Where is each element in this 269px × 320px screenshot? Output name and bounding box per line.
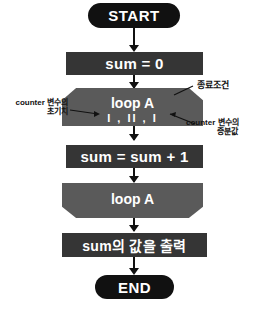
node-init-sum[interactable]: sum = 0 — [66, 52, 203, 75]
arrowhead-init-to-loopstart — [129, 82, 139, 89]
node-accumulate-label: sum = sum + 1 — [80, 148, 188, 165]
node-output-label: sum의 값을 출력 — [82, 235, 187, 255]
annotation-termination: 종료조건 — [197, 80, 267, 90]
arrowhead-start-to-init — [129, 45, 139, 52]
annotation-init-value-line2: 초기치 — [2, 108, 68, 117]
arrowhead-loopend-to-output — [129, 225, 139, 232]
node-init-sum-label: sum = 0 — [105, 55, 163, 72]
flowchart-canvas: START sum = 0 loop A I , II , I counter … — [0, 0, 269, 320]
annotation-increment-line2: 증분값 — [186, 128, 268, 137]
node-loop-start[interactable]: loop A I , II , I — [62, 88, 203, 126]
node-start[interactable]: START — [88, 3, 180, 28]
arrowhead-loopstart-to-accumulate — [129, 134, 139, 141]
node-loop-start-params: I , II , I — [62, 112, 203, 124]
annotation-increment: counter 변수의 증분값 — [186, 119, 268, 137]
node-loop-end[interactable]: loop A — [62, 183, 203, 218]
annotation-termination-line1: 종료조건 — [197, 80, 267, 90]
arrowhead-output-to-end — [129, 268, 139, 275]
node-loop-end-label: loop A — [62, 191, 203, 207]
annotation-init-value: counter 변수의 초기치 — [2, 99, 68, 117]
node-start-label: START — [108, 7, 159, 24]
node-loop-start-label: loop A — [62, 95, 203, 111]
node-end-label: END — [118, 279, 151, 296]
node-end[interactable]: END — [95, 275, 174, 299]
node-accumulate[interactable]: sum = sum + 1 — [66, 145, 203, 168]
arrowhead-accumulate-to-loopend — [129, 176, 139, 183]
node-output[interactable]: sum의 값을 출력 — [62, 233, 207, 257]
